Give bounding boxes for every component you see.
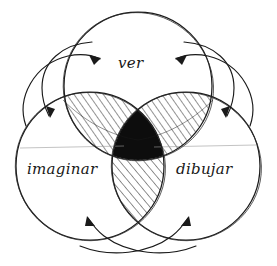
set-label-ver: ver <box>118 54 143 72</box>
region-center-core <box>0 0 277 266</box>
venn-diagram: ver imaginar dibujar <box>0 0 277 266</box>
arrow-to-dibujar-bottom <box>80 216 191 253</box>
set-label-imaginar: imaginar <box>27 160 98 178</box>
venn-diagram-canvas <box>0 0 277 266</box>
set-label-dibujar: dibujar <box>176 160 233 178</box>
